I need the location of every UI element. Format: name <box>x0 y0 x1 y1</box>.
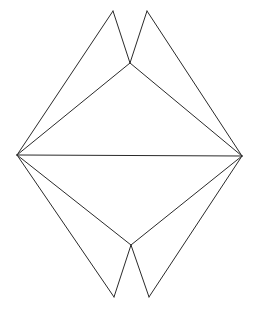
diagram-canvas <box>0 0 259 315</box>
polygon-figure <box>0 0 259 315</box>
canvas-background <box>0 0 259 315</box>
